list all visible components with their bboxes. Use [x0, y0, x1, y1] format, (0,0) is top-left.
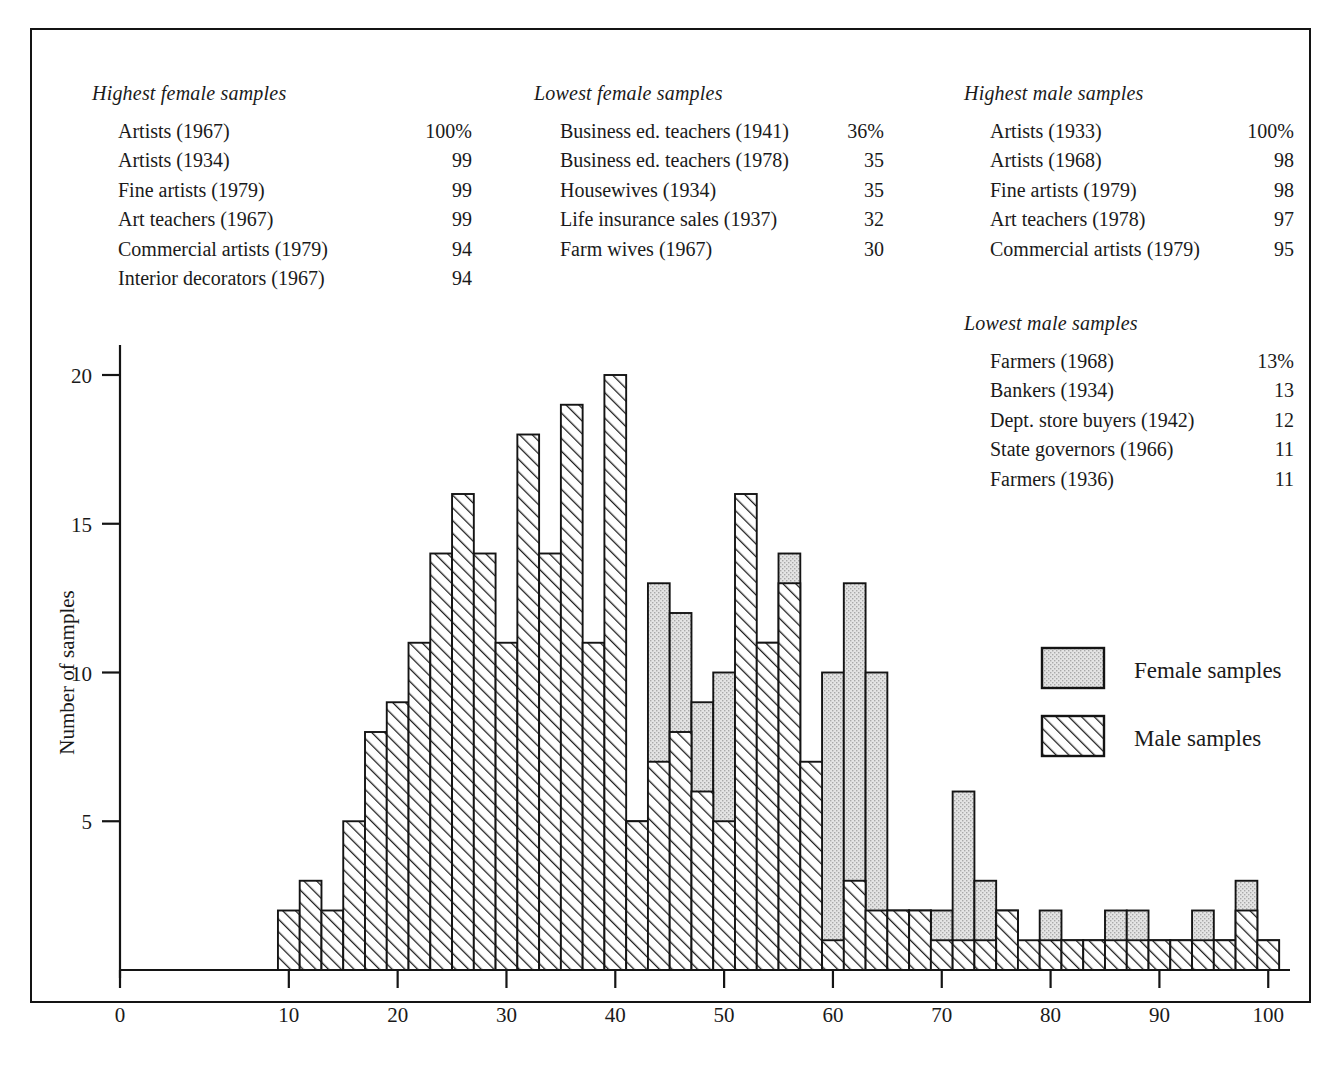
bar-male — [866, 911, 888, 971]
bar-male — [583, 643, 605, 970]
bar-male — [887, 911, 909, 971]
sample-value: 98 — [1228, 176, 1294, 205]
sample-row: Artists (1968) 98 — [990, 146, 1294, 175]
sample-value: 99 — [402, 146, 472, 175]
sample-label: Life insurance sales (1937) — [560, 205, 777, 234]
bar-male — [474, 554, 496, 971]
sample-label: Artists (1967) — [118, 117, 230, 146]
x-tick-label: 60 — [822, 1003, 843, 1027]
sample-label: Commercial artists (1979) — [990, 235, 1200, 264]
bar-male — [300, 881, 322, 970]
sample-row: Commercial artists (1979) 95 — [990, 235, 1294, 264]
x-tick-label: 30 — [496, 1003, 517, 1027]
bar-male — [1105, 940, 1127, 970]
bar-male — [1257, 940, 1279, 970]
bar-male — [800, 762, 822, 970]
sample-value: 98 — [1228, 146, 1294, 175]
bar-male — [757, 643, 779, 970]
block-title: Highest female samples — [92, 82, 472, 105]
sample-block-highest-male: Highest male samples Artists (1933) 100%… — [964, 82, 1294, 264]
bar-male — [343, 821, 365, 970]
y-tick-label: 20 — [71, 364, 92, 388]
sample-label: Business ed. teachers (1978) — [560, 146, 789, 175]
sample-label: Business ed. teachers (1941) — [560, 117, 789, 146]
bar-male — [670, 732, 692, 970]
sample-value: 100% — [1228, 117, 1294, 146]
sample-row: Fine artists (1979) 98 — [990, 176, 1294, 205]
legend-swatch-female — [1042, 648, 1104, 688]
sample-row: Artists (1967) 100% — [118, 117, 472, 146]
bar-male — [539, 554, 561, 971]
sample-row: Business ed. teachers (1941) 36% — [560, 117, 884, 146]
sample-label: Farm wives (1967) — [560, 235, 712, 264]
sample-row: Interior decorators (1967) 94 — [118, 264, 472, 293]
sample-row: Business ed. teachers (1978) 35 — [560, 146, 884, 175]
bar-male — [735, 494, 757, 970]
sample-value: 99 — [402, 176, 472, 205]
sample-value: 94 — [402, 264, 472, 293]
sample-row: Artists (1933) 100% — [990, 117, 1294, 146]
bar-male — [648, 762, 670, 970]
x-tick-label: 80 — [1040, 1003, 1061, 1027]
bar-male — [844, 881, 866, 970]
sample-row: Farm wives (1967) 30 — [560, 235, 884, 264]
sample-value: 35 — [828, 146, 884, 175]
histogram-svg: 01020304050607080901005101520Percent "Li… — [32, 330, 1313, 1030]
bar-male — [713, 821, 735, 970]
bar-male — [691, 792, 713, 971]
legend-label: Female samples — [1134, 658, 1282, 683]
bar-male — [430, 554, 452, 971]
legend-swatch-male — [1042, 716, 1104, 756]
sample-label: Fine artists (1979) — [118, 176, 265, 205]
bar-male — [1127, 940, 1149, 970]
bar-male — [387, 702, 409, 970]
sample-label: Artists (1934) — [118, 146, 230, 175]
sample-label: Artists (1933) — [990, 117, 1102, 146]
bar-male — [953, 940, 975, 970]
sample-row: Fine artists (1979) 99 — [118, 176, 472, 205]
bar-male — [517, 435, 539, 971]
figure-frame: Highest female samples Artists (1967) 10… — [30, 28, 1311, 1003]
bar-male — [1192, 940, 1214, 970]
bar-male — [1170, 940, 1192, 970]
bars-layer — [278, 375, 1279, 970]
sample-row: Life insurance sales (1937) 32 — [560, 205, 884, 234]
x-tick-label: 20 — [387, 1003, 408, 1027]
x-tick-label: 90 — [1149, 1003, 1170, 1027]
sample-value: 99 — [402, 205, 472, 234]
bar-male — [1083, 940, 1105, 970]
bar-male — [561, 405, 583, 970]
bar-male — [1236, 911, 1258, 971]
bar-male — [1018, 940, 1040, 970]
sample-value: 94 — [402, 235, 472, 264]
x-tick-label: 100 — [1252, 1003, 1284, 1027]
bar-male — [1040, 940, 1062, 970]
x-tick-label: 0 — [115, 1003, 126, 1027]
bar-male — [626, 821, 648, 970]
legend-label: Male samples — [1134, 726, 1261, 751]
block-title: Highest male samples — [964, 82, 1294, 105]
bar-male — [909, 911, 931, 971]
sample-value: 36% — [828, 117, 884, 146]
legend-layer: Female samplesMale samples — [1042, 648, 1282, 756]
bar-male — [974, 940, 996, 970]
sample-block-highest-female: Highest female samples Artists (1967) 10… — [92, 82, 472, 293]
histogram-chart: 01020304050607080901005101520Percent "Li… — [32, 330, 1313, 1030]
block-title: Lowest female samples — [534, 82, 884, 105]
bar-male — [1061, 940, 1083, 970]
sample-label: Interior decorators (1967) — [118, 264, 325, 293]
sample-label: Fine artists (1979) — [990, 176, 1137, 205]
sample-value: 95 — [1228, 235, 1294, 264]
sample-label: Housewives (1934) — [560, 176, 716, 205]
sample-label: Artists (1968) — [990, 146, 1102, 175]
sample-row: Art teachers (1978) 97 — [990, 205, 1294, 234]
x-tick-label: 50 — [714, 1003, 735, 1027]
sample-row: Artists (1934) 99 — [118, 146, 472, 175]
bar-male — [1214, 940, 1236, 970]
sample-value: 32 — [828, 205, 884, 234]
bar-male — [452, 494, 474, 970]
sample-value: 97 — [1228, 205, 1294, 234]
y-tick-label: 5 — [82, 810, 93, 834]
sample-value: 30 — [828, 235, 884, 264]
sample-row: Art teachers (1967) 99 — [118, 205, 472, 234]
